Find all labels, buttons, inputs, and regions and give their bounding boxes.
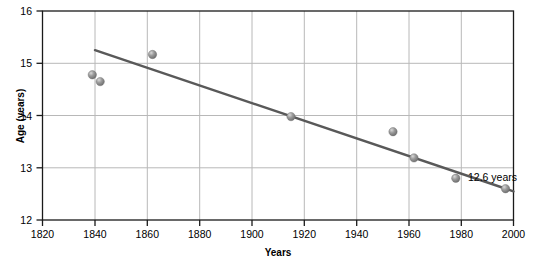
x-tick-label-1860: 1860 xyxy=(136,228,160,240)
x-tick-label-1920: 1920 xyxy=(293,228,317,240)
y-axis-title: Age (years) xyxy=(15,89,26,143)
data-point-1954 xyxy=(389,128,397,136)
y-tick-label-12: 12 xyxy=(20,214,32,226)
data-point-1997 xyxy=(501,185,509,193)
data-point-1962 xyxy=(410,154,418,162)
y-tick-label-16: 16 xyxy=(20,5,32,17)
x-tick-label-1820: 1820 xyxy=(31,228,55,240)
chart-figure: 16 15 14 13 12 1820 1840 1860 1880 1900 … xyxy=(0,0,536,265)
x-tick-label-1980: 1980 xyxy=(450,228,474,240)
data-point-1839 xyxy=(88,71,96,79)
x-axis-title: Years xyxy=(265,247,292,258)
x-axis-ticks xyxy=(43,220,514,226)
x-tick-label-1960: 1960 xyxy=(397,228,421,240)
data-point-1915 xyxy=(287,112,295,120)
data-point-1978 xyxy=(452,174,460,182)
y-axis-ticks xyxy=(37,11,43,220)
age-at-menarche-scatter-chart: 16 15 14 13 12 1820 1840 1860 1880 1900 … xyxy=(0,0,536,265)
y-tick-label-15: 15 xyxy=(20,57,32,69)
data-point-1862 xyxy=(148,50,156,58)
x-tick-label-1880: 1880 xyxy=(188,228,212,240)
x-tick-label-2000: 2000 xyxy=(502,228,526,240)
x-tick-labels: 1820 1840 1860 1880 1900 1920 1940 1960 … xyxy=(31,228,526,240)
y-tick-label-13: 13 xyxy=(20,162,32,174)
x-tick-label-1840: 1840 xyxy=(83,228,107,240)
x-tick-label-1940: 1940 xyxy=(345,228,369,240)
data-point-1842 xyxy=(96,77,104,85)
x-tick-label-1900: 1900 xyxy=(240,228,264,240)
annotation-12-6-years: 12.6 years xyxy=(468,171,517,183)
